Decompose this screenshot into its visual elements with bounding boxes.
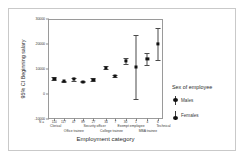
y-tick-mark — [46, 94, 49, 95]
error-bar-cap — [155, 28, 160, 29]
legend-label-males: Males — [181, 98, 193, 103]
data-point-female — [62, 80, 65, 83]
category-label-office-trainee: Office trainee — [64, 129, 84, 133]
y-tick-mark — [46, 19, 49, 20]
legend-item-males[interactable]: Males — [172, 96, 234, 105]
data-point-male — [146, 57, 149, 60]
male-marker-icon — [172, 96, 178, 105]
category-label-college-trainee: College trainee — [100, 129, 123, 133]
error-bar-cap — [133, 35, 138, 36]
category-label-mba-trainee: MBA trainee — [139, 129, 157, 133]
legend: Sex of employee Males Females — [172, 84, 234, 126]
error-bar-chart: 95% CI Beginning salary 30000 20000 1000… — [0, 0, 245, 160]
y-tick-mark — [46, 44, 49, 45]
category-label-row: Clerical Office trainee Security officer… — [40, 124, 170, 136]
legend-item-females[interactable]: Females — [172, 111, 234, 120]
data-point-male — [156, 43, 159, 46]
error-bar-cap — [133, 99, 138, 100]
y-tick-label-0: 0 — [43, 92, 45, 96]
plot-area: 30000 20000 10000 0 -10000 — [48, 19, 163, 119]
category-label-exempt-employee: Exempt employee — [117, 124, 144, 128]
data-point-female — [114, 75, 117, 78]
data-point-female — [134, 65, 137, 68]
error-bar-cap — [52, 80, 57, 81]
y-tick-label-20000: 20000 — [36, 42, 46, 46]
error-bar-cap — [155, 60, 160, 61]
error-bar-cap — [145, 65, 150, 66]
chart-screenshot: 95% CI Beginning salary 30000 20000 1000… — [0, 0, 245, 160]
error-bar-cap — [145, 53, 150, 54]
y-tick-label-30000: 30000 — [36, 17, 46, 21]
legend-label-females: Females — [181, 113, 199, 118]
y-axis-title-text: 95% CI Beginning salary — [20, 39, 26, 98]
data-point-female — [82, 80, 85, 83]
category-label-technical: Technical — [156, 124, 170, 128]
data-point-male — [72, 78, 75, 81]
data-point-male — [124, 59, 127, 62]
data-point-male — [53, 77, 56, 80]
data-point-male — [104, 66, 107, 69]
error-bar-cap — [104, 69, 109, 70]
y-tick-label-10000: 10000 — [36, 67, 46, 71]
y-tick-mark — [46, 69, 49, 70]
female-marker-icon — [172, 111, 178, 120]
category-label-clerical: Clerical — [50, 124, 61, 128]
x-axis-title: Employment category — [48, 136, 163, 142]
category-label-security-officer: Security officer — [83, 124, 105, 128]
data-point-male — [92, 78, 95, 81]
error-bar-cap — [123, 64, 128, 65]
y-axis-title: 95% CI Beginning salary — [18, 19, 28, 119]
legend-title: Sex of employee — [172, 84, 234, 90]
